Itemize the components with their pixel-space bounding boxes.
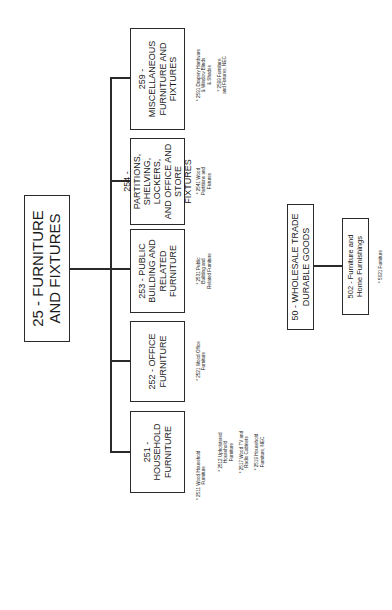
box-label-line: FURNITURE xyxy=(168,239,178,303)
org-diagram: 25 - FURNITURE AND FIXTURES 251 - HOUSEH… xyxy=(0,0,392,610)
box-label-line: 253 - PUBLIC xyxy=(137,239,147,303)
box-label-line: FURNITURE xyxy=(158,334,168,390)
box-label-line: 259 - MISCELLANEOUS xyxy=(137,33,157,125)
box-252-office-furniture: 252 - OFFICE FURNITURE xyxy=(130,321,185,402)
connector-259 xyxy=(110,78,130,80)
item-2517: * 2517 Wood TV andRadio Cabinets xyxy=(239,406,250,498)
connector-50-502 xyxy=(314,266,342,268)
item-2531: * 2531 PublicBuilding andRelated Furnitu… xyxy=(196,232,212,310)
box-label-line: BUILDING AND xyxy=(147,239,157,303)
connector-253 xyxy=(110,269,130,271)
item-2521: * 2521 Wood OfficeFurniture xyxy=(196,322,207,400)
box-502-furniture-and-home-furnishings: 502 - Furniture and Home Furnishings xyxy=(342,218,369,315)
root-box-25-furniture-and-fixtures: 25 - FURNITURE AND FIXTURES xyxy=(24,195,70,342)
items-502: * 5021 Furniture xyxy=(378,223,388,310)
box-label-line: FURNITURE AND xyxy=(158,33,168,125)
connector-spine xyxy=(110,78,112,453)
box-label-line: SHELVING, LOCKERS, xyxy=(142,143,162,220)
box-label-line: 254 - PARTITIONS, xyxy=(122,143,142,220)
item-2512: * 2512 UpholsteredHouseholdFurniture xyxy=(218,406,234,498)
box-50-wholesale-trade-durable-goods: 50 - WHOLESALE TRADE DURABLE GOODS xyxy=(287,204,314,330)
item-5021: * 5021 Furniture xyxy=(378,223,383,310)
box-label-line: STORE FIXTURES xyxy=(173,143,193,220)
items-252: * 2521 Wood OfficeFurniture xyxy=(196,322,212,400)
box-label-line: Home Furnishings xyxy=(356,235,364,299)
items-253: * 2531 PublicBuilding andRelated Furnitu… xyxy=(196,232,217,310)
items-251-col: * 2512 UpholsteredHouseholdFurniture * 2… xyxy=(196,406,286,498)
box-254-partitions-shelving-lockers: 254 - PARTITIONS, SHELVING, LOCKERS, AND… xyxy=(130,138,185,225)
connector-251 xyxy=(110,452,130,454)
connector-root xyxy=(69,269,110,271)
box-253-public-building-and-related-furniture: 253 - PUBLIC BUILDING AND RELATED FURNIT… xyxy=(130,229,185,313)
box-label-line: DURABLE GOODS xyxy=(301,214,311,321)
box-label-line: FIXTURES xyxy=(168,33,178,125)
item-2591: * 2591 Drapery Hardware& Window Blinds& … xyxy=(196,30,212,120)
box-label-line: 50 - WHOLESALE TRADE xyxy=(290,214,300,321)
box-label-line: FURNITURE xyxy=(163,416,173,488)
root-label-line: 25 - FURNITURE xyxy=(30,210,47,327)
box-259-miscellaneous-furniture-and-fixtures: 259 - MISCELLANEOUS FURNITURE AND FIXTUR… xyxy=(130,28,185,130)
item-2599: * 2599 Furnitureand Fixtures, NEC xyxy=(217,30,228,120)
items-259: * 2591 Drapery Hardware& Window Blinds& … xyxy=(196,30,232,120)
box-label-line: 251 - HOUSEHOLD xyxy=(142,416,162,488)
item-2541: * 2541 WoodPartitions andFixtures xyxy=(196,142,212,220)
item-2519: * 2519 HouseholdFurniture, NEC xyxy=(254,406,265,498)
root-label-line: AND FIXTURES xyxy=(47,210,64,327)
box-label-line: AND OFFICE AND xyxy=(163,143,173,220)
box-251-household-furniture: 251 - HOUSEHOLD FURNITURE xyxy=(130,411,185,493)
connector-252 xyxy=(110,361,130,363)
items-254: * 2541 WoodPartitions andFixtures xyxy=(196,142,217,220)
box-label-line: 252 - OFFICE xyxy=(147,334,157,390)
box-label-line: RELATED xyxy=(158,239,168,303)
